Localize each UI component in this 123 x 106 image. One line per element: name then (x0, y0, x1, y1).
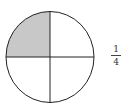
shaded-quarter (6, 12, 50, 58)
fraction-label: 1 4 (110, 44, 122, 67)
fraction-numerator: 1 (110, 44, 122, 54)
fraction-circle-diagram (0, 0, 123, 106)
fraction-denominator: 4 (110, 57, 122, 67)
fraction-bar (111, 55, 121, 56)
